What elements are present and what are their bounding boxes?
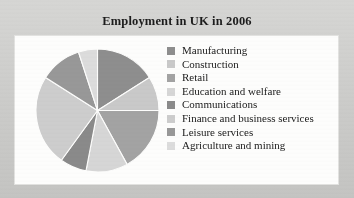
pie-slice-group xyxy=(36,49,159,172)
legend-item: Communications xyxy=(167,98,335,112)
chart-legend: ManufacturingConstructionRetailEducation… xyxy=(167,44,335,153)
legend-item: Leisure services xyxy=(167,126,335,140)
legend-item-label: Communications xyxy=(182,98,257,112)
page-title: Employment in UK in 2006 xyxy=(102,14,251,29)
pie-chart-svg xyxy=(35,48,160,173)
legend-item: Agriculture and mining xyxy=(167,139,335,153)
legend-item-label: Leisure services xyxy=(182,126,253,140)
legend-swatch-icon xyxy=(167,142,175,150)
legend-swatch-icon xyxy=(167,101,175,109)
legend-item-label: Finance and business services xyxy=(182,112,314,126)
chart-figure: Employment in UK in 2006 ManufacturingCo… xyxy=(0,0,354,198)
legend-item-label: Manufacturing xyxy=(182,44,247,58)
chart-panel: ManufacturingConstructionRetailEducation… xyxy=(14,35,339,185)
legend-item-label: Construction xyxy=(182,58,239,72)
legend-swatch-icon xyxy=(167,60,175,68)
legend-item: Manufacturing xyxy=(167,44,335,58)
legend-swatch-icon xyxy=(167,47,175,55)
legend-swatch-icon xyxy=(167,128,175,136)
legend-item-label: Agriculture and mining xyxy=(182,139,285,153)
legend-item-label: Education and welfare xyxy=(182,85,281,99)
legend-item: Retail xyxy=(167,71,335,85)
legend-item: Finance and business services xyxy=(167,112,335,126)
legend-swatch-icon xyxy=(167,74,175,82)
legend-item: Education and welfare xyxy=(167,85,335,99)
chart-title-band: Employment in UK in 2006 xyxy=(0,6,354,36)
pie-chart xyxy=(35,48,160,173)
legend-item: Construction xyxy=(167,58,335,72)
legend-item-label: Retail xyxy=(182,71,208,85)
legend-swatch-icon xyxy=(167,88,175,96)
legend-swatch-icon xyxy=(167,115,175,123)
